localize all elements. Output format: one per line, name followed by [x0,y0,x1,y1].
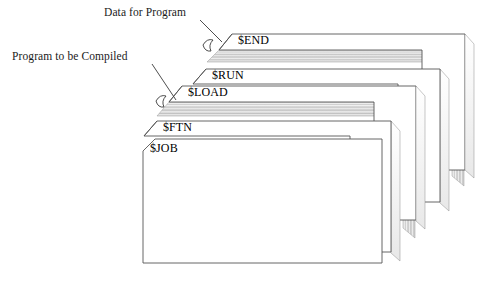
diagram-canvas: $END $RUN $LOAD $FTN $JOB [0,0,484,282]
deck-job-label: $JOB [150,141,178,155]
deck-end-right-thickness [465,34,474,178]
deck-job-face[interactable] [143,139,382,263]
leader-line-program-to-be-compiled [152,64,176,100]
annotation-data-for-program-label: Data for Program [104,6,186,19]
deck-load-right-thickness [416,86,425,229]
annotation-program-to-be-compiled-label: Program to be Compiled [12,50,128,63]
deck-load-label: $LOAD [188,85,228,99]
deck-load-top-edge [157,102,403,116]
leader-line-data-for-program [200,20,222,42]
deck-run-right-thickness [440,69,449,211]
deck-job[interactable]: $JOB [143,139,382,263]
deck-ftn-label: $FTN [163,120,192,134]
card-deck-diagram: $END $RUN $LOAD $FTN $JOB [0,0,484,282]
deck-end-top-edge [207,50,452,62]
deck-run-label: $RUN [212,68,244,82]
deck-end-label: $END [238,33,269,47]
bracket-hook-data-for-program [203,40,213,52]
bracket-hook-program-to-be-compiled [156,96,166,108]
annotation-data-for-program: Data for Program [104,6,222,51]
deck-ftn-right-thickness [391,121,400,261]
annotation-program-to-be-compiled: Program to be Compiled [12,50,176,107]
